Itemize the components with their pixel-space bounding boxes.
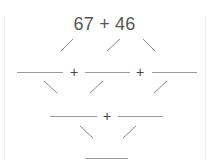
- branch-line: [107, 39, 120, 51]
- decomposition-lines: [0, 0, 209, 160]
- answer-blank[interactable]: [118, 116, 163, 117]
- answer-blank[interactable]: [152, 72, 197, 73]
- branch-line: [80, 126, 93, 138]
- plus-sign: +: [102, 109, 112, 123]
- answer-blank[interactable]: [50, 116, 97, 117]
- plus-sign: +: [135, 65, 145, 79]
- answer-blank[interactable]: [85, 72, 130, 73]
- branch-line: [44, 81, 57, 93]
- branch-line: [61, 39, 73, 51]
- answer-blank[interactable]: [17, 72, 63, 73]
- branch-line: [123, 126, 136, 138]
- branch-line: [143, 39, 155, 51]
- branch-line: [154, 81, 167, 93]
- final-answer-blank[interactable]: [85, 158, 128, 159]
- plus-sign: +: [69, 65, 79, 79]
- branch-line: [90, 81, 103, 93]
